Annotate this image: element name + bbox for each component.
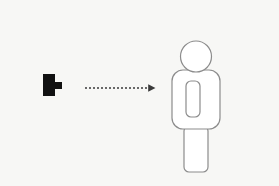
diagram-canvas: [0, 0, 279, 186]
person-badge-pocket: [186, 81, 200, 117]
person-legs: [184, 126, 208, 172]
plug-body: [43, 74, 55, 96]
background-plate: [0, 0, 279, 186]
plug-tip: [55, 82, 62, 89]
pictogram-illustration: [0, 0, 279, 186]
person-head: [181, 41, 212, 72]
